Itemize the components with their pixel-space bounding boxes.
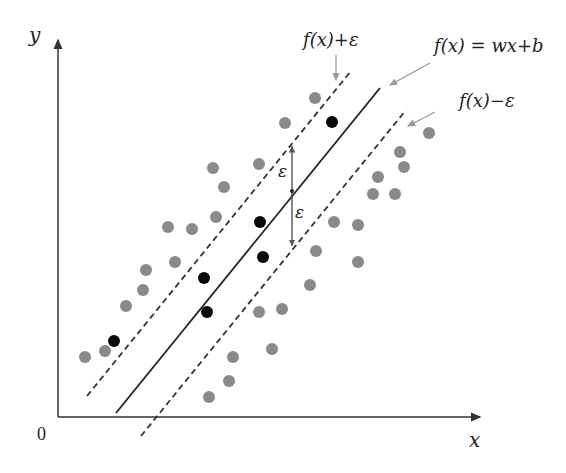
data-point-outside-tube [162, 221, 174, 233]
data-point-outside-tube [394, 146, 406, 158]
data-point-outside-tube [310, 245, 322, 257]
data-point-outside-tube [140, 264, 152, 276]
regression-line [116, 88, 380, 413]
data-point-outside-tube [218, 181, 230, 193]
regression-line-label: f(x) = wx+b [432, 35, 544, 56]
data-point-inside-tube [108, 335, 120, 347]
data-point-outside-tube [423, 127, 435, 139]
data-point-outside-tube [279, 117, 291, 129]
upper-bound-label: f(x)+ε [301, 29, 359, 50]
epsilon-arrow-midpoint [290, 189, 294, 193]
data-point-outside-tube [169, 256, 181, 268]
data-point-inside-tube [201, 306, 213, 318]
data-point-outside-tube [223, 375, 235, 387]
data-point-outside-tube [352, 219, 364, 231]
y-axis-label: y [28, 23, 41, 47]
data-point-outside-tube [253, 158, 265, 170]
data-point-inside-tube [326, 116, 338, 128]
regression-line-pointer-arrow [390, 63, 430, 85]
data-point-outside-tube [207, 162, 219, 174]
data-point-outside-tube [203, 391, 215, 403]
lower-epsilon-line [141, 110, 406, 436]
lower-bound-label: f(x)−ε [457, 90, 515, 111]
data-point-outside-tube [210, 211, 222, 223]
data-point-outside-tube [328, 216, 340, 228]
x-axis-label: x [469, 428, 480, 452]
data-point-outside-tube [309, 92, 321, 104]
data-point-outside-tube [253, 306, 265, 318]
lower-bound-pointer-arrow [408, 112, 435, 126]
data-point-inside-tube [254, 216, 266, 228]
data-point-inside-tube [257, 251, 269, 263]
data-point-outside-tube [389, 188, 401, 200]
data-point-outside-tube [352, 256, 364, 268]
diagram-canvas: y x 0 ε ε f(x)+ε f(x) = wx+b f(x)−ε [0, 0, 566, 473]
epsilon-upper-label: ε [278, 161, 287, 181]
epsilon-lower-label: ε [295, 202, 304, 222]
data-point-outside-tube [120, 300, 132, 312]
data-point-outside-tube [398, 161, 410, 173]
data-point-outside-tube [276, 303, 288, 315]
data-point-outside-tube [372, 171, 384, 183]
data-point-outside-tube [79, 351, 91, 363]
data-point-inside-tube [198, 272, 210, 284]
upper-epsilon-line [87, 71, 351, 396]
data-point-outside-tube [99, 345, 111, 357]
origin-label: 0 [37, 424, 46, 444]
data-point-outside-tube [367, 188, 379, 200]
data-point-outside-tube [266, 343, 278, 355]
data-point-outside-tube [186, 223, 198, 235]
data-point-outside-tube [304, 279, 316, 291]
data-point-outside-tube [137, 284, 149, 296]
svr-diagram: y x 0 ε ε f(x)+ε f(x) = wx+b f(x)−ε [0, 0, 566, 473]
data-point-outside-tube [227, 351, 239, 363]
support-points-group [108, 116, 338, 347]
